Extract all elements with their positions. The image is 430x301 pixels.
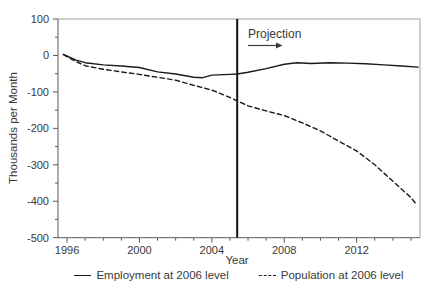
- projection-label: Projection: [248, 27, 301, 41]
- x-axis-tick-label: 2008: [272, 244, 296, 256]
- legend-item-population: Population at 2006 level: [259, 269, 404, 281]
- dashed-line-swatch: [259, 275, 276, 276]
- y-axis-tick-label: -500: [27, 232, 49, 244]
- solid-line-swatch: [74, 275, 91, 276]
- y-axis-tick-label: -300: [27, 159, 49, 171]
- data-series: [63, 19, 418, 238]
- y-axis-tick-label: -200: [27, 122, 49, 134]
- x-axis-title: Year: [225, 254, 248, 266]
- x-axis-tick-label: 2012: [344, 244, 368, 256]
- x-axis-tick-label: 2000: [127, 244, 151, 256]
- y-axis-tick-label: -400: [27, 195, 49, 207]
- right-arrow-icon: [248, 43, 283, 49]
- x-axis-tick-label: 2004: [200, 244, 224, 256]
- y-axis-title: Thousands per Month: [7, 72, 19, 184]
- population-line: [63, 55, 416, 205]
- line-chart: 199620002004200820121000-100-200-300-400…: [0, 0, 430, 301]
- chart-figure: 199620002004200820121000-100-200-300-400…: [0, 0, 430, 301]
- axis-ticks: 199620002004200820121000-100-200-300-400…: [27, 13, 411, 256]
- y-axis-tick-label: 100: [31, 13, 49, 25]
- employment-line: [63, 54, 418, 77]
- x-axis-tick-label: 1996: [55, 244, 79, 256]
- y-axis-tick-label: -100: [27, 86, 49, 98]
- legend-label-employment: Employment at 2006 level: [96, 269, 228, 281]
- legend: Employment at 2006 level Population at 2…: [58, 266, 420, 284]
- legend-item-employment: Employment at 2006 level: [74, 269, 228, 281]
- plot-borders: [58, 19, 420, 238]
- legend-label-population: Population at 2006 level: [281, 269, 404, 281]
- y-axis-tick-label: 0: [43, 49, 49, 61]
